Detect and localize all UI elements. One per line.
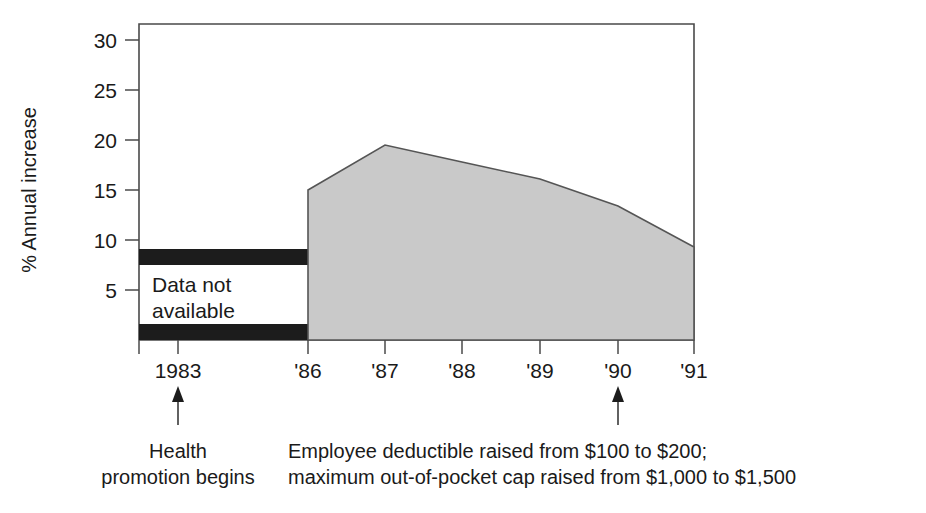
y-tick-label-25: 25 <box>94 79 117 102</box>
y-tick-label-30: 30 <box>94 29 117 52</box>
no-data-bar-bottom <box>139 324 308 340</box>
x-tick-label-91: '91 <box>680 359 707 382</box>
y-tick-label-20: 20 <box>94 129 117 152</box>
annotation-90-line2: maximum out-of-pocket cap raised from $1… <box>288 466 796 488</box>
x-axis-ticks <box>139 340 694 354</box>
no-data-label-line1: Data not <box>152 273 232 296</box>
y-axis-title: % Annual increase <box>18 107 40 273</box>
annotation-pointer-1983 <box>172 386 184 425</box>
x-tick-label-90: '90 <box>604 359 631 382</box>
y-tick-label-15: 15 <box>94 179 117 202</box>
y-tick-label-10: 10 <box>94 229 117 252</box>
x-tick-label-1983: 1983 <box>155 359 202 382</box>
chart-page: 30 25 20 15 10 5 % Annual increase Data … <box>0 0 926 513</box>
annual-increase-area-chart: 30 25 20 15 10 5 % Annual increase Data … <box>0 0 926 513</box>
annotation-1983-line1: Health <box>149 440 207 462</box>
area-series-annual-increase <box>308 145 694 340</box>
x-tick-label-88: '88 <box>448 359 475 382</box>
y-tick-label-5: 5 <box>105 279 117 302</box>
x-tick-label-87: '87 <box>371 359 398 382</box>
no-data-bar-top <box>139 249 308 265</box>
x-tick-label-89: '89 <box>526 359 553 382</box>
annotation-90-line1: Employee deductible raised from $100 to … <box>288 440 707 462</box>
no-data-label-line2: available <box>152 299 235 322</box>
x-tick-label-86: '86 <box>294 359 321 382</box>
annotation-pointer-90 <box>612 386 624 425</box>
y-axis-ticks <box>125 40 139 290</box>
annotation-1983-line2: promotion begins <box>101 466 254 488</box>
